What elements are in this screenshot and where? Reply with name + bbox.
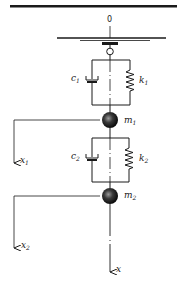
spring-icon (125, 148, 133, 169)
x1-displacement-arrow (14, 120, 100, 163)
origin-label: 0 (107, 15, 112, 24)
mass-1-icon (102, 112, 118, 128)
vibration-system-diagram: 0 c1 k1 m1 x1 (0, 0, 177, 285)
mass-2-label: m2 (124, 190, 137, 201)
x1-label: x1 (20, 155, 29, 166)
spring-icon (126, 70, 134, 91)
x-axis-label: x (116, 264, 121, 274)
mass-2-icon (102, 188, 118, 204)
spring-1-label: k1 (139, 75, 148, 86)
fixed-support (57, 26, 166, 60)
top-rule (10, 5, 177, 8)
x2-label: x2 (21, 240, 30, 251)
stage-2-frame (86, 138, 133, 182)
damper-2-label: c2 (71, 151, 80, 162)
mass-1-label: m1 (124, 115, 136, 126)
pivot-icon (107, 48, 114, 55)
spring-2-label: k2 (139, 153, 148, 164)
x2-displacement-arrow (14, 196, 100, 248)
damper-1-label: c1 (71, 73, 80, 84)
